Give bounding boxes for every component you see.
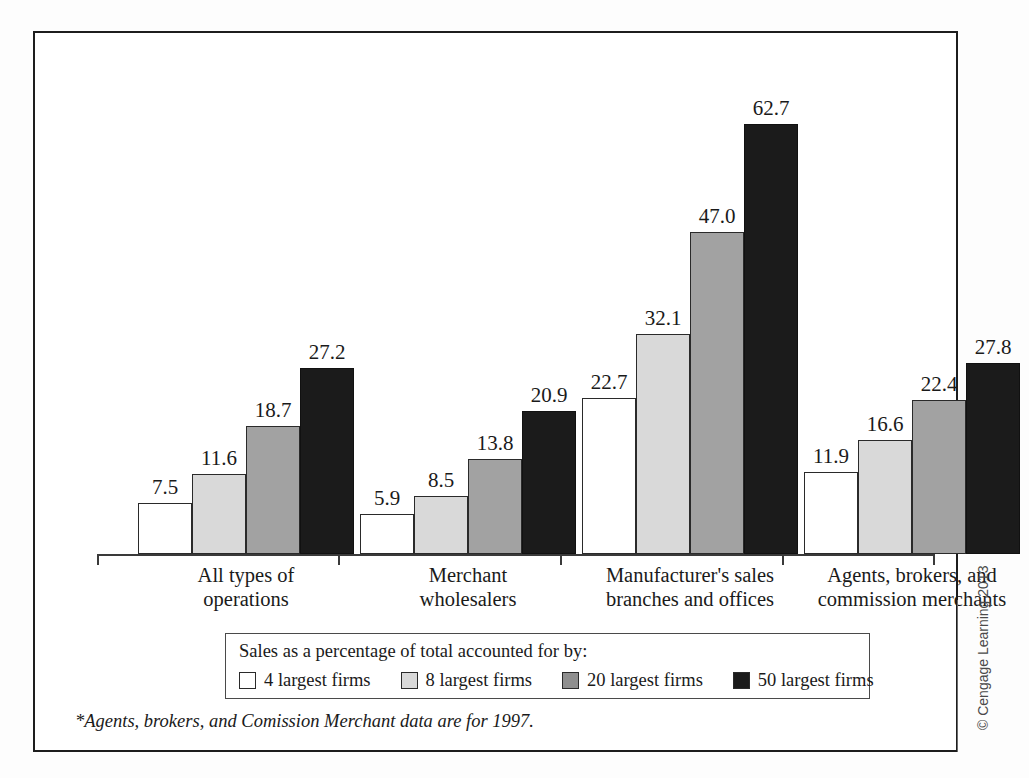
axis-tick <box>97 554 99 565</box>
legend-title: Sales as a percentage of total accounted… <box>239 641 587 662</box>
legend-item: 4 largest firms <box>239 670 371 691</box>
category-label-line: Merchant <box>338 563 598 587</box>
legend-item-label: 4 largest firms <box>264 670 371 691</box>
bar <box>858 440 912 554</box>
legend-swatch-icon <box>239 672 256 689</box>
category-label-line: commission merchants <box>782 587 1029 611</box>
legend-item: 20 largest firms <box>562 670 703 691</box>
bar <box>966 363 1020 554</box>
legend-swatch-icon <box>401 672 418 689</box>
bar <box>804 472 858 554</box>
legend-item: 50 largest firms <box>733 670 874 691</box>
bar-value-label: 62.7 <box>730 98 812 119</box>
bar <box>468 459 522 554</box>
category-label-line: operations <box>116 587 376 611</box>
bar <box>636 334 690 554</box>
category-label: Agents, brokers, andcommission merchants <box>782 563 1029 611</box>
category-label-line: Manufacturer's sales <box>560 563 820 587</box>
figure-canvas: 7.511.618.727.25.98.513.820.922.732.147.… <box>0 0 1029 778</box>
bar <box>138 503 192 554</box>
category-label-line: wholesalers <box>338 587 598 611</box>
legend-item-label: 20 largest firms <box>587 670 703 691</box>
category-label-line: All types of <box>116 563 376 587</box>
copyright-divider <box>957 600 958 752</box>
legend-item-label: 50 largest firms <box>758 670 874 691</box>
bar <box>582 398 636 554</box>
bar-value-label: 27.2 <box>286 342 368 363</box>
bar <box>192 474 246 554</box>
legend-items: 4 largest firms8 largest firms20 largest… <box>239 670 874 691</box>
legend-box: Sales as a percentage of total accounted… <box>225 633 870 699</box>
bar-value-label: 27.8 <box>952 337 1029 358</box>
category-label: All types ofoperations <box>116 563 376 611</box>
bar <box>744 124 798 554</box>
bar <box>360 514 414 554</box>
category-label: Manufacturer's salesbranches and offices <box>560 563 820 611</box>
x-axis-baseline <box>97 554 935 556</box>
copyright-notice: © Cengage Learning 2013 <box>975 566 991 730</box>
bar <box>522 411 576 554</box>
bar <box>912 400 966 554</box>
figure-frame: 7.511.618.727.25.98.513.820.922.732.147.… <box>33 31 958 752</box>
legend-swatch-icon <box>562 672 579 689</box>
footnote-text: *Agents, brokers, and Comission Merchant… <box>75 711 534 732</box>
bar <box>690 232 744 554</box>
bar <box>246 426 300 554</box>
plot-area: 7.511.618.727.25.98.513.820.922.732.147.… <box>97 73 935 555</box>
bar <box>300 368 354 554</box>
category-label-line: Agents, brokers, and <box>782 563 1029 587</box>
legend-swatch-icon <box>733 672 750 689</box>
legend-item-label: 8 largest firms <box>426 670 533 691</box>
legend-item: 8 largest firms <box>401 670 533 691</box>
bar <box>414 496 468 554</box>
category-label-line: branches and offices <box>560 587 820 611</box>
category-label: Merchantwholesalers <box>338 563 598 611</box>
